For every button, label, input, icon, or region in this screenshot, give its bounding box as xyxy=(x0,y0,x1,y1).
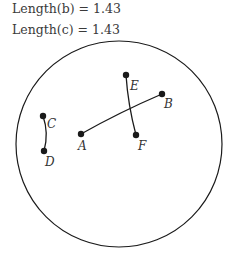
label-e: E xyxy=(129,79,139,93)
segment-cd xyxy=(43,116,46,151)
point-e xyxy=(123,72,129,78)
label-c: C xyxy=(47,117,56,131)
point-f xyxy=(133,132,139,138)
segment-ab xyxy=(81,94,162,134)
label-b: B xyxy=(163,97,173,111)
point-a xyxy=(78,131,84,137)
circle-diagram: ABCDEF xyxy=(0,0,237,260)
label-d: D xyxy=(44,155,55,169)
label-f: F xyxy=(137,139,147,153)
point-c xyxy=(40,113,46,119)
label-a: A xyxy=(77,139,87,153)
point-d xyxy=(41,148,47,154)
boundary-circle xyxy=(16,41,222,247)
